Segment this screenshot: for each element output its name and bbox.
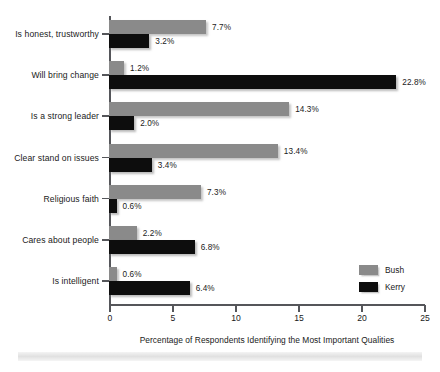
bar-value-label: 2.0% [140,119,159,128]
bar-kerry-4 [109,199,117,213]
bar-bush-5 [109,226,137,240]
x-axis-tick [298,305,300,312]
bar-value-label: 22.8% [402,78,426,87]
bar-row: 3.4% [109,158,440,172]
legend-label: Bush [385,265,404,275]
category-label: Is intelligent [52,276,99,286]
x-axis-tick-label: 0 [108,313,113,323]
category-label: Is honest, trustworthy [15,29,99,39]
bar-value-label: 1.2% [130,64,149,73]
bar-value-label: 6.8% [201,243,220,252]
bar-bush-0 [109,20,206,34]
bar-bush-2 [109,102,289,116]
bar-row: 13.4% [109,144,440,158]
x-axis-line [109,304,425,306]
category-anchor: Religious faith [109,192,110,206]
category-anchor: Is intelligent [109,274,110,288]
decorative-band [18,352,422,361]
x-axis-tick-label: 10 [231,313,241,323]
x-axis-tick-label: 15 [294,313,304,323]
category-label: Cares about people [22,235,99,245]
legend-swatch [359,265,378,275]
bar-row: 7.3% [109,185,440,199]
category-anchor: Is honest, trustworthy [109,27,110,41]
bar-bush-3 [109,144,278,158]
category-label: Is a strong leader [31,111,99,121]
legend-swatch [359,282,378,292]
x-axis-title: Percentage of Respondents Identifying th… [109,335,425,345]
bar-row: 0.6% [109,199,440,213]
bar-value-label: 0.6% [123,270,142,279]
category-anchor: Is a strong leader [109,109,110,123]
bar-kerry-3 [109,158,152,172]
bar-bush-4 [109,185,201,199]
x-axis-tick-label: 5 [171,313,176,323]
legend-item-kerry: Kerry [359,281,405,292]
category-anchor: Cares about people [109,233,110,247]
bar-value-label: 0.6% [123,201,142,210]
bar-row: 22.8% [109,75,440,89]
bar-value-label: 3.4% [158,160,177,169]
bar-value-label: 2.2% [143,229,162,238]
x-axis-tick [235,305,237,312]
bar-chart: 7.7%3.2%Is honest, trustworthy1.2%22.8%W… [0,0,440,372]
category-label: Religious faith [44,194,99,204]
bar-row: 1.2% [109,61,440,75]
bar-value-label: 7.3% [207,187,226,196]
bar-row: 6.8% [109,240,440,254]
bar-kerry-0 [109,34,149,48]
category-label: Will bring change [31,70,99,80]
bar-row: 7.7% [109,20,440,34]
x-axis-tick-label: 25 [420,313,430,323]
category-label: Clear stand on issues [14,153,99,163]
bar-bush-1 [109,61,124,75]
y-axis-tick [102,115,109,117]
bar-row: 14.3% [109,102,440,116]
y-axis-tick [102,157,109,159]
y-axis-tick [102,280,109,282]
bar-row: 2.2% [109,226,440,240]
bar-kerry-6 [109,281,190,295]
x-axis-tick [361,305,363,312]
bar-value-label: 3.2% [155,37,174,46]
y-axis-tick [102,74,109,76]
bar-kerry-1 [109,75,396,89]
legend-item-bush: Bush [359,264,405,275]
bar-row: 3.2% [109,34,440,48]
category-anchor: Clear stand on issues [109,151,110,165]
bar-row: 2.0% [109,116,440,130]
y-axis-tick [102,239,109,241]
bar-bush-6 [109,267,117,281]
x-axis-tick-label: 20 [357,313,367,323]
bar-value-label: 6.4% [196,284,215,293]
bar-value-label: 14.3% [295,105,319,114]
bar-value-label: 7.7% [212,23,231,32]
bar-kerry-2 [109,116,134,130]
chart-legend: BushKerry [359,264,405,298]
y-axis-tick [102,33,109,35]
legend-label: Kerry [385,282,405,292]
y-axis-tick [102,198,109,200]
x-axis-tick [424,305,426,312]
x-axis-tick [172,305,174,312]
category-anchor: Will bring change [109,68,110,82]
bar-kerry-5 [109,240,195,254]
x-axis-tick [109,305,111,312]
bar-value-label: 13.4% [284,146,308,155]
